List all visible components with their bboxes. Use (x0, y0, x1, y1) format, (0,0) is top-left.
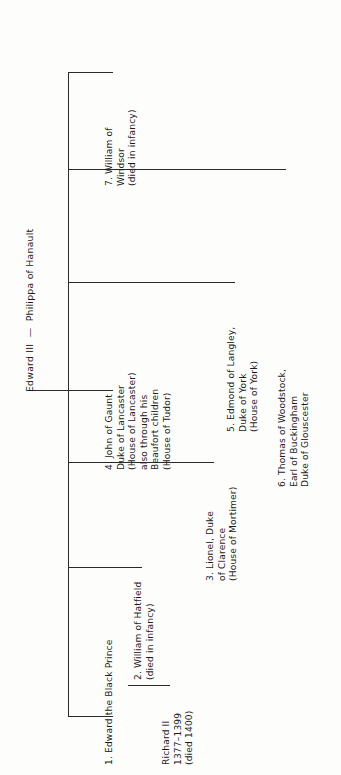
root-label: Edward III — Philippa of Hanault (24, 229, 36, 392)
branch-line-child-2 (68, 567, 142, 568)
node-label-child-1: 1. Edward the Black Prince (104, 640, 116, 766)
node-label-child-4: 4. John of Gaunt Duke of Lancaster (Hous… (104, 372, 174, 470)
node-label-child-7: 7. William of Windsor (died in infancy) (104, 109, 139, 186)
node-label-child-5: 5. Edmond of Langley, Duke of York (Hous… (226, 327, 261, 432)
node-label-child-6: 6. Thomas of Woodstock, Earl of Buckingh… (277, 369, 312, 487)
branch-line-richard-ii (128, 685, 170, 686)
family-tree-diagram: Edward III — Philippa of Hanault 7. Will… (0, 0, 341, 775)
branch-line-child-6 (68, 169, 286, 170)
branch-line-child-7 (68, 72, 113, 73)
branch-line-child-5 (68, 282, 235, 283)
node-label-child-3: 3. Lionel, Duke of Clarence (House of Mo… (205, 487, 240, 581)
node-label-child-2: 2. William of Hatfield (died in infancy) (133, 582, 156, 680)
node-label-richard-ii: Richard II 1377–1399 (died 1400) (161, 711, 196, 765)
